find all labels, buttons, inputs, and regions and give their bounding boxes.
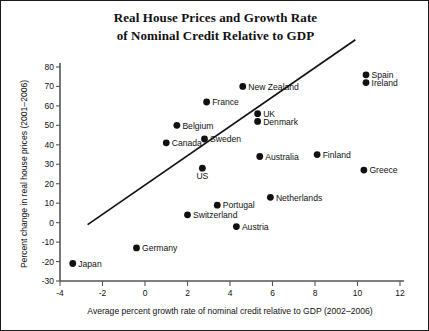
y-axis: -30-20-1001020304050607080 xyxy=(42,62,60,286)
data-point-marker[interactable] xyxy=(69,260,76,267)
data-point-label: US xyxy=(196,171,208,181)
data-point[interactable]: Australia xyxy=(256,152,299,162)
data-point-label: Portugal xyxy=(223,200,255,210)
data-point-marker[interactable] xyxy=(254,118,261,125)
y-tick-label: 20 xyxy=(45,179,55,189)
data-point-label: Austria xyxy=(242,222,269,232)
data-point-label: Belgium xyxy=(182,121,213,131)
data-point-marker[interactable] xyxy=(133,245,140,252)
y-tick-label: 30 xyxy=(45,159,55,169)
data-point-marker[interactable] xyxy=(184,211,191,218)
data-point-label: Switzerland xyxy=(193,210,238,220)
data-point[interactable]: Portugal xyxy=(214,200,255,210)
data-point-label: France xyxy=(212,97,239,107)
y-tick-label: -10 xyxy=(42,237,55,247)
data-point-label: Greece xyxy=(369,165,397,175)
data-point-label: New Zealand xyxy=(248,82,299,92)
data-point-marker[interactable] xyxy=(256,153,263,160)
data-point-marker[interactable] xyxy=(203,99,210,106)
y-tick-label: 60 xyxy=(45,101,55,111)
data-point-marker[interactable] xyxy=(163,139,170,146)
data-point-label: Canada xyxy=(172,138,202,148)
data-point-marker[interactable] xyxy=(363,71,370,78)
x-axis-title: Average percent growth rate of nominal c… xyxy=(87,306,372,316)
y-tick-label: 10 xyxy=(45,198,55,208)
x-tick-label: -4 xyxy=(56,288,64,298)
x-tick-label: 12 xyxy=(395,288,405,298)
x-axis: -4-2024681012 xyxy=(56,281,405,298)
data-point[interactable]: Austria xyxy=(233,222,269,232)
data-point-marker[interactable] xyxy=(267,194,274,201)
data-point-marker[interactable] xyxy=(201,136,208,143)
data-point[interactable]: Netherlands xyxy=(267,193,322,203)
data-point[interactable]: Spain xyxy=(363,70,394,80)
data-point-label: Netherlands xyxy=(276,193,322,203)
data-point-marker[interactable] xyxy=(239,83,246,90)
data-point-marker[interactable] xyxy=(254,110,261,117)
y-tick-label: -30 xyxy=(42,276,55,286)
x-tick-label: -2 xyxy=(99,288,107,298)
x-tick-label: 8 xyxy=(313,288,318,298)
data-points: JapanGermanySwitzerlandAustriaPortugalNe… xyxy=(69,70,398,269)
y-tick-label: 70 xyxy=(45,81,55,91)
data-point-label: Japan xyxy=(78,259,102,269)
data-point[interactable]: Denmark xyxy=(254,117,298,127)
scatter-plot: -30-20-1001020304050607080 -4-2024681012… xyxy=(1,1,429,331)
data-point-label: Finland xyxy=(323,150,351,160)
chart-figure: Real House Prices and Growth Rate of Nom… xyxy=(0,0,429,331)
data-point[interactable]: Germany xyxy=(133,243,178,253)
y-axis-title: Percent change in real house prices (200… xyxy=(19,80,29,268)
data-point[interactable]: US xyxy=(196,165,208,181)
data-point-marker[interactable] xyxy=(314,151,321,158)
y-tick-label: 40 xyxy=(45,140,55,150)
data-point[interactable]: Canada xyxy=(163,138,202,148)
data-point-marker[interactable] xyxy=(233,223,240,230)
data-point-label: Spain xyxy=(372,70,394,80)
data-point-marker[interactable] xyxy=(360,167,367,174)
x-tick-label: 2 xyxy=(185,288,190,298)
data-point[interactable]: Finland xyxy=(314,150,351,160)
data-point[interactable]: Belgium xyxy=(173,121,213,131)
data-point[interactable]: New Zealand xyxy=(239,82,299,92)
y-tick-label: 0 xyxy=(49,218,54,228)
data-point-marker[interactable] xyxy=(214,202,221,209)
data-point-marker[interactable] xyxy=(363,79,370,86)
data-point-marker[interactable] xyxy=(173,122,180,129)
x-tick-label: 6 xyxy=(270,288,275,298)
y-tick-label: 80 xyxy=(45,62,55,72)
x-tick-label: 10 xyxy=(353,288,363,298)
data-point[interactable]: UK xyxy=(254,109,275,119)
data-point[interactable]: Japan xyxy=(69,259,102,269)
data-point[interactable]: Greece xyxy=(360,165,397,175)
data-point[interactable]: Switzerland xyxy=(184,210,238,220)
x-tick-label: 0 xyxy=(143,288,148,298)
y-tick-label: 50 xyxy=(45,120,55,130)
y-tick-label: -20 xyxy=(42,257,55,267)
data-point-label: Germany xyxy=(142,243,178,253)
data-point-label: Australia xyxy=(265,152,299,162)
data-point-label: Sweden xyxy=(210,134,241,144)
x-tick-label: 4 xyxy=(228,288,233,298)
data-point[interactable]: France xyxy=(203,97,239,107)
data-point-label: UK xyxy=(263,109,275,119)
